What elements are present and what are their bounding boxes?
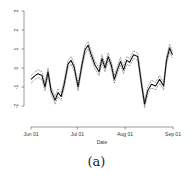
x-tick-label: Jul 01 [71,131,85,137]
plot-area [31,41,173,108]
y-tick-label: -1 [13,85,19,90]
estimate-line [31,45,173,104]
y-tick-label: 1 [13,47,19,50]
x-axis-title: Date [97,139,108,145]
line-chart: -2-10123 Jun 01Jul 01Aug 01Sep 01 Date [0,0,193,154]
x-axis: Jun 01Jul 01Aug 01Sep 01 [23,127,181,137]
y-tick-label: 2 [13,28,19,31]
y-tick-label: 0 [13,66,19,69]
y-tick-label: 3 [13,9,19,12]
x-tick-label: Jun 01 [23,131,38,137]
confidence-band-line [31,41,173,100]
x-tick-label: Sep 01 [165,131,181,137]
figure-caption: (a) [0,154,193,169]
confidence-band-line [31,49,173,108]
x-tick-label: Aug 01 [117,131,133,137]
y-tick-label: -2 [13,104,19,109]
y-axis: -2-10123 [13,9,24,108]
